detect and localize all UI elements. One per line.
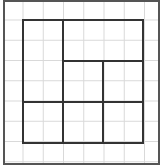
outer-frame bbox=[4, 1, 159, 164]
partitioned-square bbox=[23, 20, 143, 143]
grid-diagram bbox=[0, 0, 161, 168]
partition-lines bbox=[23, 20, 143, 143]
background-grid bbox=[4, 1, 159, 164]
